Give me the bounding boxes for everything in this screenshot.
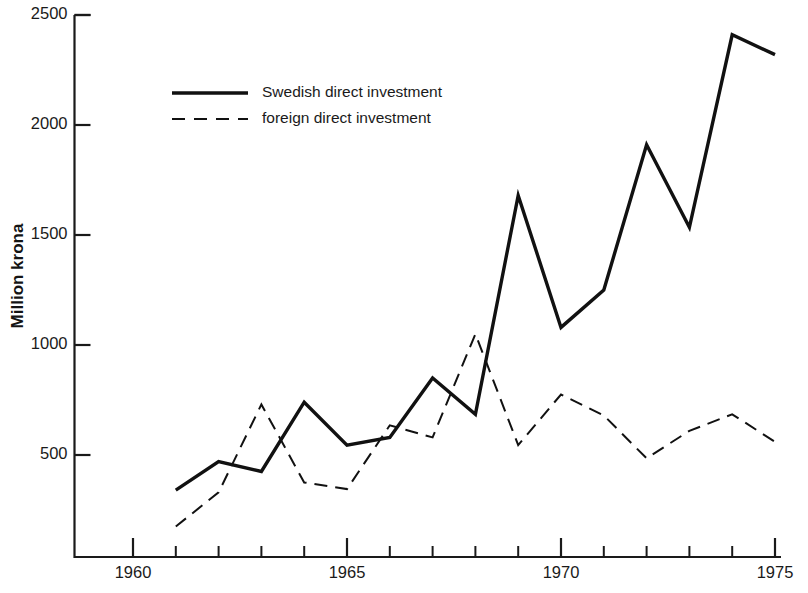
y-tick-label: 1500 [31,224,68,243]
chart-figure: Million krona 50010001500200025001960196… [0,0,808,593]
series-line-1 [176,334,775,527]
y-tick-label: 1000 [31,334,68,353]
y-axis-title-text: Million krona [8,224,28,329]
series-line-0 [176,35,775,490]
y-tick-label: 2500 [31,4,68,23]
legend-label-0: Swedish direct investment [262,83,442,101]
x-tick-label: 1965 [307,563,387,582]
x-tick-label: 1975 [735,563,808,582]
x-tick-label: 1970 [521,563,601,582]
legend-label-1: foreign direct investment [262,109,431,127]
x-tick-label: 1960 [93,563,173,582]
y-tick-label: 2000 [31,114,68,133]
y-tick-label: 500 [40,444,68,463]
y-axis-title: Million krona [2,196,34,356]
